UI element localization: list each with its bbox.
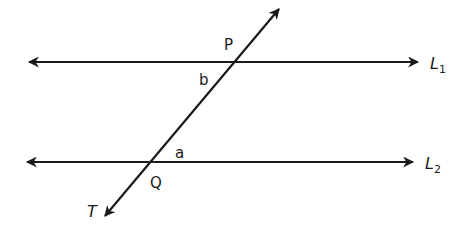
angle-label-a: a — [175, 144, 184, 162]
line-label-t: T — [87, 202, 98, 221]
point-label-q: Q — [150, 174, 162, 192]
angle-label-b: b — [199, 71, 209, 89]
line-label-l2: L2 — [425, 154, 441, 176]
transversal-t — [105, 9, 279, 216]
point-label-p: P — [224, 36, 233, 54]
line-label-l1: L1 — [430, 54, 446, 76]
parallel-lines-diagram: P Q b a L1 L2 T — [0, 0, 463, 227]
